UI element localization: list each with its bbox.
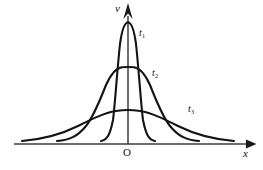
- curve-label-t3-sub: 3: [191, 108, 194, 115]
- distribution-figure: v x O t1 t2 t3: [0, 0, 263, 170]
- curve-label-t1: t1: [139, 28, 145, 38]
- y-axis-label: v: [115, 3, 120, 14]
- curve-label-t2: t2: [152, 68, 158, 78]
- origin-label: O: [123, 147, 131, 158]
- x-axis-label: x: [243, 148, 248, 159]
- curve-label-t2-sub: 2: [155, 72, 158, 79]
- curve-label-t3: t3: [188, 104, 194, 114]
- figure-canvas: [0, 0, 263, 170]
- curve-label-t1-sub: 1: [142, 32, 145, 39]
